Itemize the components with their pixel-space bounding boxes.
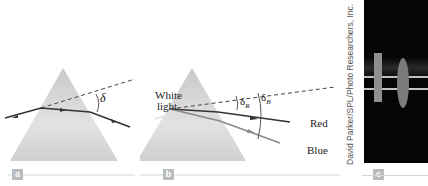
- deviation-angle-label: δ: [100, 91, 106, 106]
- panel-badge-a: a: [12, 169, 23, 180]
- lens-photograph: [364, 0, 428, 163]
- red-ray-label: Red: [310, 117, 328, 129]
- prism: [10, 68, 118, 161]
- panel-badge-b: b: [163, 169, 174, 180]
- white-light-label-line2: light: [157, 100, 177, 112]
- red-deviation-angle-label: δR: [240, 95, 249, 110]
- deviation-arc: [96, 94, 99, 112]
- diverging-lens: [374, 53, 382, 102]
- converging-lens: [397, 58, 409, 108]
- panel-a: δ a: [0, 0, 140, 186]
- red-deviation-arc: [236, 96, 238, 110]
- caption-rule-c: [362, 175, 428, 176]
- blue-deviation-angle-label: δB: [261, 91, 270, 106]
- photo-credit: David Parker/SPL/Photo Researchers, Inc.: [345, 4, 355, 165]
- panel-b: White light δR δB Red Blue b: [140, 0, 345, 186]
- lens-photo-illustration: [364, 0, 428, 163]
- blue-ray-label: Blue: [307, 144, 328, 156]
- prism-refraction-diagram: [0, 0, 140, 186]
